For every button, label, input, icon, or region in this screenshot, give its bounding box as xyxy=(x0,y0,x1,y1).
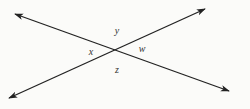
angle-label-y: y xyxy=(115,26,119,36)
angle-label-z: z xyxy=(115,65,119,75)
line-descending xyxy=(15,14,229,91)
angle-label-x: x xyxy=(89,47,93,57)
lines-canvas xyxy=(0,0,250,109)
angle-label-w: w xyxy=(139,44,146,54)
intersecting-lines-diagram: y x w z xyxy=(0,0,250,109)
